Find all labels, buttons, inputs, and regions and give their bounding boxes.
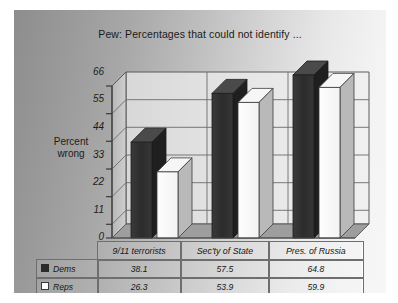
bar-reps-sec-ty-of-state[interactable] xyxy=(238,88,273,238)
legend-item-reps[interactable]: Reps xyxy=(37,278,98,294)
category-header-0: 9/11 terrorists xyxy=(98,242,181,260)
category-header-2: Pres. of Russia xyxy=(269,242,362,260)
legend-label-dems: Dems xyxy=(53,264,75,274)
legend-label-reps: Reps xyxy=(53,282,73,292)
cell-reps-0: 26.3 xyxy=(98,278,181,294)
left-side-wall xyxy=(112,72,126,238)
chart-data-table: 9/11 terrorists Sec'ty of State Pres. of… xyxy=(36,241,363,293)
table-corner-cell xyxy=(37,242,98,260)
table-row: Dems 38.1 57.5 64.8 xyxy=(37,260,363,278)
table-row: Reps 26.3 53.9 59.9 xyxy=(37,278,363,294)
cell-dems-2: 64.8 xyxy=(269,260,362,278)
legend-item-dems[interactable]: Dems xyxy=(37,260,98,278)
cell-reps-1: 53.9 xyxy=(181,278,269,294)
cell-dems-0: 38.1 xyxy=(98,260,181,278)
bar-reps-9-11-terrorists[interactable] xyxy=(157,158,192,238)
category-header-1: Sec'ty of State xyxy=(181,242,269,260)
bar-reps-pres-of-russia[interactable] xyxy=(319,73,354,238)
filled-square-icon xyxy=(41,264,49,272)
cell-dems-1: 57.5 xyxy=(181,260,269,278)
table-header-row: 9/11 terrorists Sec'ty of State Pres. of… xyxy=(37,242,363,260)
cell-reps-2: 59.9 xyxy=(269,278,362,294)
outlined-square-icon xyxy=(41,282,49,290)
value-axis xyxy=(106,86,112,238)
slide-canvas: Pew: Percentages that could not identify… xyxy=(14,10,386,293)
